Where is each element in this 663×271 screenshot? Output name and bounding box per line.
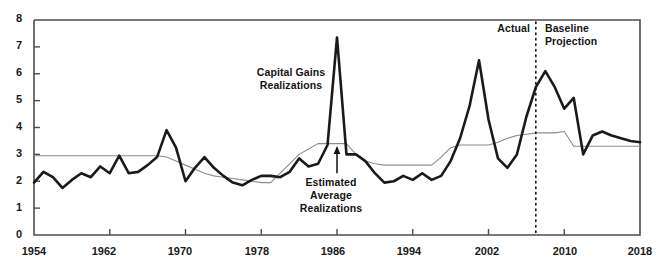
x-axis-label-1986: 1986 <box>310 246 356 257</box>
x-axis-label-1994: 1994 <box>386 246 432 257</box>
y-axis-label-6: 6 <box>4 67 22 78</box>
estimated-average-realizations-annotation: Estimated Average Realizations <box>282 176 380 215</box>
capital-gains-line-2: Realizations <box>240 79 342 92</box>
y-axis-label-2: 2 <box>4 175 22 186</box>
y-axis-label-3: 3 <box>4 148 22 159</box>
x-axis-label-1962: 1962 <box>81 246 127 257</box>
x-axis-label-2010: 2010 <box>542 246 588 257</box>
y-axis-label-7: 7 <box>4 40 22 51</box>
y-axis-label-0: 0 <box>4 229 22 240</box>
capital-gains-realizations-annotation: Capital Gains Realizations <box>240 66 342 92</box>
x-axis-label-1954: 1954 <box>11 246 57 257</box>
actual-annotation: Actual <box>476 22 530 35</box>
estimated-line-2: Average <box>282 189 380 202</box>
estimated-line-1: Estimated <box>282 176 380 189</box>
x-axis-label-2002: 2002 <box>464 246 510 257</box>
y-axis-label-8: 8 <box>4 13 22 24</box>
baseline-line-2: Projection <box>545 35 615 48</box>
capital-gains-chart: 8 7 6 5 4 3 2 1 0 1954 1962 1970 1978 19… <box>0 0 663 271</box>
x-axis-label-1970: 1970 <box>157 246 203 257</box>
capital-gains-line-1: Capital Gains <box>240 66 342 79</box>
baseline-projection-annotation: Baseline Projection <box>545 22 615 48</box>
x-axis-label-2018: 2018 <box>617 246 663 257</box>
y-axis-label-1: 1 <box>4 202 22 213</box>
x-axis-label-1978: 1978 <box>234 246 280 257</box>
y-axis-label-4: 4 <box>4 121 22 132</box>
y-axis-label-5: 5 <box>4 94 22 105</box>
estimated-line-3: Realizations <box>282 202 380 215</box>
baseline-line-1: Baseline <box>545 22 615 35</box>
